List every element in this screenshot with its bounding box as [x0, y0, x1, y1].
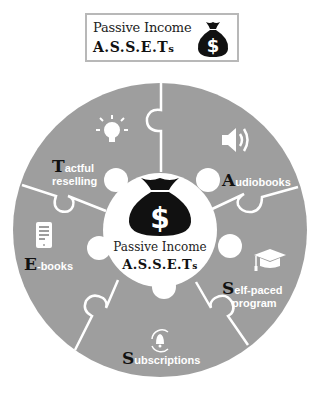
segment-label-audiobooks: Audiobooks [222, 174, 291, 189]
segment-label-subscriptions: Subscriptions [122, 352, 200, 367]
segment-text-line2: reselling [52, 175, 97, 187]
segment-text: -books [37, 260, 73, 272]
svg-text:$: $ [150, 202, 169, 235]
puzzle-ring: $ [0, 0, 321, 398]
segment-text-line2: program [222, 297, 277, 309]
segment-label-e-books: E-books [24, 258, 73, 273]
segment-text: actful [65, 162, 94, 174]
segment-label-tactful-reselling: Tactful reselling [52, 160, 97, 188]
segment-text: ubscriptions [134, 354, 200, 366]
segment-text: udiobooks [235, 176, 291, 188]
center-acronym-suffix: s [192, 261, 198, 271]
center-acronym-main: A.S.S.E.T [122, 257, 192, 272]
segment-letter: E [24, 254, 37, 274]
segment-letter: S [122, 348, 134, 368]
tablet-icon [36, 222, 52, 248]
segment-letter: A [222, 170, 235, 190]
segment-letter: T [52, 156, 65, 176]
segment-letter: S [222, 278, 234, 298]
center-title: Passive Income [100, 240, 220, 254]
segment-label-self-paced-program: Self-paced program [222, 282, 283, 310]
segment-text: elf-paced [234, 284, 282, 296]
center-acronym: A.S.S.E.Ts [100, 257, 220, 272]
